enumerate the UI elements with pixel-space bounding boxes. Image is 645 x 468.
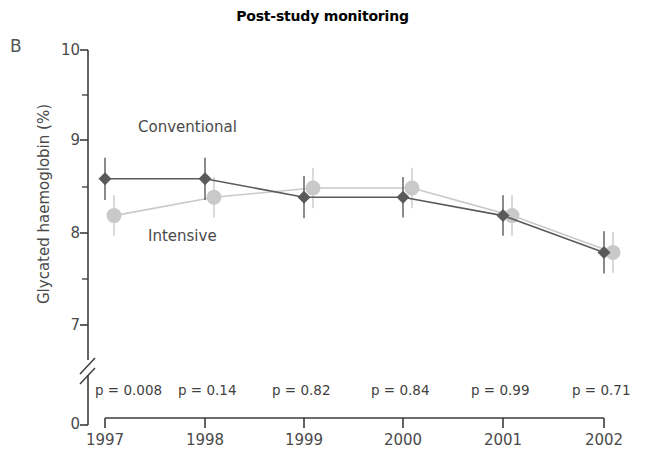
data-marker [207, 190, 222, 205]
axes [80, 50, 604, 428]
footer-caption-fragment [0, 452, 645, 468]
series-conventional [99, 158, 611, 274]
series-line [105, 179, 604, 253]
data-marker [99, 172, 112, 185]
data-marker [405, 181, 420, 196]
axis-break-slash-upper [80, 358, 95, 374]
data-marker [107, 208, 122, 223]
data-marker [199, 172, 212, 185]
series-intensive [107, 168, 621, 273]
plot-area [0, 0, 645, 468]
figure-panel-b: Post-study monitoring B Glycated haemogl… [0, 0, 645, 468]
data-marker [306, 181, 321, 196]
